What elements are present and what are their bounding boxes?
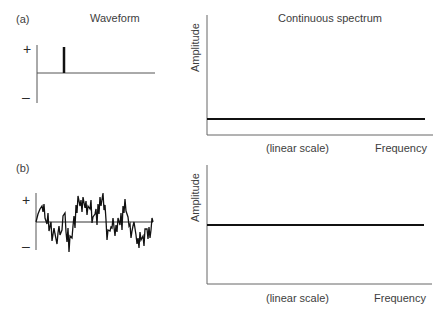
diagram-canvas	[0, 0, 446, 312]
spectrum-b-flat-high	[207, 165, 432, 284]
spectrum-a-flat-low	[207, 15, 433, 135]
waveform-b-noise	[36, 193, 153, 252]
waveform-a-impulse	[37, 45, 155, 103]
